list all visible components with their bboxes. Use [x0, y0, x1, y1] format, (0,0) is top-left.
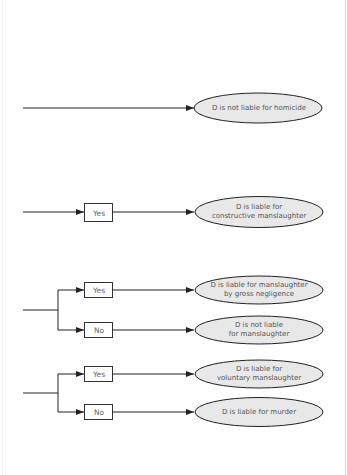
- outcome-text: D is liable for murder: [222, 408, 296, 417]
- decision-text: Yes: [93, 286, 105, 295]
- decision-label-no: No: [85, 323, 113, 338]
- decision-text: Yes: [93, 370, 105, 379]
- outcome-constructive-manslaughter: D is liable for constructive manslaughte…: [200, 201, 318, 223]
- outcome-not-liable-homicide: D is not liable for homicide: [200, 100, 318, 116]
- decision-label-yes: Yes: [85, 204, 113, 222]
- decision-label-no: No: [85, 405, 113, 420]
- outcome-text: D is not liable for homicide: [212, 104, 306, 113]
- decision-label-yes: Yes: [85, 367, 113, 382]
- outcome-voluntary-manslaughter: D is liable for voluntary manslaughter: [200, 363, 318, 385]
- decision-text: Yes: [93, 209, 105, 218]
- outcome-liable-murder: D is liable for murder: [200, 404, 318, 420]
- outcome-gross-negligence-manslaughter: D is liable for manslaughter by gross ne…: [198, 279, 320, 301]
- outcome-text-line2: by gross negligence: [224, 290, 294, 299]
- decision-text: No: [94, 408, 104, 417]
- decision-text: No: [94, 326, 104, 335]
- outcome-text-line1: D is not liable: [235, 321, 283, 330]
- decision-label-yes: Yes: [85, 283, 113, 298]
- outcome-text-line1: D is liable for: [236, 365, 282, 374]
- outcome-text-line1: D is liable for manslaughter: [210, 281, 307, 290]
- outcome-text-line2: voluntary manslaughter: [217, 374, 301, 383]
- outcome-text-line2: for manslaughter: [229, 330, 290, 339]
- outcome-text-line1: D is liable for: [236, 203, 282, 212]
- outcome-text-line2: constructive manslaughter: [212, 212, 306, 221]
- outcome-not-liable-manslaughter: D is not liable for manslaughter: [200, 319, 318, 341]
